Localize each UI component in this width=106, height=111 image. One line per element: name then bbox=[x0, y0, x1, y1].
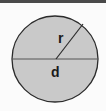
circle-diagram: r d bbox=[0, 0, 106, 111]
diameter-label: d bbox=[51, 64, 60, 80]
radius-label: r bbox=[58, 30, 64, 46]
